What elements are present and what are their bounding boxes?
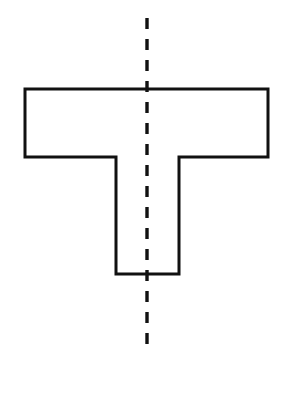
- figure-canvas: A T-shaped (tee) outline drawn in black …: [0, 0, 294, 402]
- t-shape-diagram: [0, 0, 294, 402]
